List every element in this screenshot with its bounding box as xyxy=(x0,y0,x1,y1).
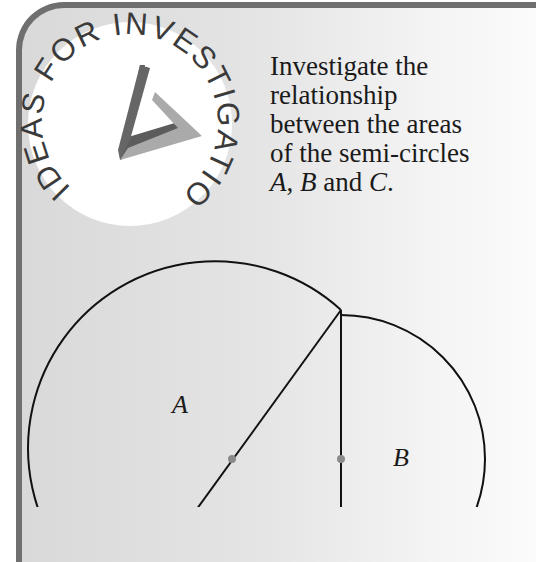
center-dot-b xyxy=(337,455,345,463)
semicircle-b xyxy=(341,315,485,507)
center-dot-a xyxy=(228,455,236,463)
label-b: B xyxy=(393,443,409,472)
label-a: A xyxy=(170,390,188,419)
semicircle-a xyxy=(28,261,341,507)
diameter-a xyxy=(123,310,341,507)
